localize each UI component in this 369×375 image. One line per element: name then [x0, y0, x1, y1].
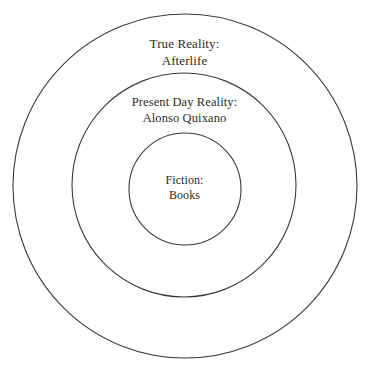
inner-ring-subtitle: Books — [0, 188, 369, 203]
middle-ring-title: Present Day Reality: — [0, 94, 369, 110]
outer-ring-title: True Reality: — [0, 36, 369, 53]
inner-ring-label: Fiction: Books — [0, 173, 369, 204]
middle-ring-subtitle: Alonso Quixano — [0, 110, 369, 126]
middle-ring-label: Present Day Reality: Alonso Quixano — [0, 94, 369, 126]
outer-ring-subtitle: Afterlife — [0, 53, 369, 70]
concentric-circles-diagram: True Reality: Afterlife Present Day Real… — [0, 0, 369, 375]
outer-ring-label: True Reality: Afterlife — [0, 36, 369, 69]
inner-ring-title: Fiction: — [0, 173, 369, 188]
